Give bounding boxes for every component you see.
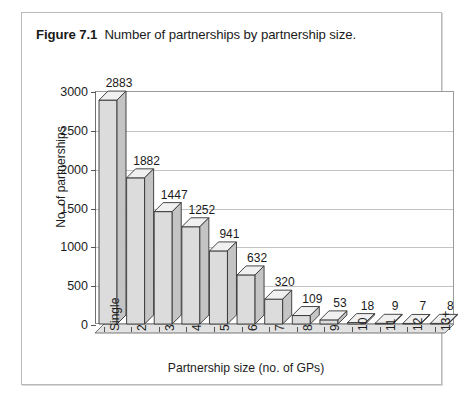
x-tick-mark — [214, 327, 215, 332]
x-tick-mark — [104, 327, 105, 332]
x-tick-mark — [297, 327, 298, 332]
gridline — [96, 286, 453, 287]
x-tick-label: Single — [108, 298, 122, 331]
x-tick-label: 3 — [163, 324, 177, 331]
x-axis-title: Partnership size (no. of GPs) — [58, 361, 434, 375]
x-tick-label: 9 — [328, 324, 342, 331]
figure-caption: Figure 7.1 Number of partnerships by par… — [36, 27, 431, 42]
x-tick-mark — [131, 327, 132, 332]
y-tick-label: 1500 — [60, 202, 88, 216]
x-tick-mark — [324, 327, 325, 332]
x-tick-label: 4 — [190, 324, 204, 331]
x-tick-mark — [269, 327, 270, 332]
figure-caption-text: Number of partnerships by partnership si… — [104, 27, 356, 42]
gridline — [96, 209, 453, 210]
x-tick-mark — [159, 327, 160, 332]
bar-value-label: 2883 — [106, 76, 133, 90]
x-tick-mark — [242, 327, 243, 332]
gridline — [96, 247, 453, 248]
y-tick-mark — [91, 92, 96, 93]
y-tick-label: 1000 — [60, 240, 88, 254]
y-tick-label: 2500 — [60, 124, 88, 138]
x-tick-label: 10 — [356, 318, 370, 331]
x-tick-label: 7 — [273, 324, 287, 331]
x-tick-mark — [186, 327, 187, 332]
x-tick-label: 6 — [246, 324, 260, 331]
y-tick-mark — [91, 170, 96, 171]
x-tick-mark — [352, 327, 353, 332]
y-tick-mark — [91, 209, 96, 210]
y-tick-label: 500 — [67, 279, 88, 293]
x-tick-label: 5 — [218, 324, 232, 331]
x-tick-mark — [435, 327, 436, 332]
x-tick-label: 2 — [135, 324, 149, 331]
x-tick-label: 12 — [411, 318, 425, 331]
y-tick-mark — [91, 247, 96, 248]
gridline — [96, 131, 453, 132]
x-tick-label: 13+ — [439, 311, 453, 331]
plot-frame: 050010001500200025003000 — [95, 91, 454, 324]
figure-number: Figure 7.1 — [36, 27, 97, 42]
x-tick-label: 8 — [301, 324, 315, 331]
x-tick-label: 11 — [384, 319, 398, 331]
y-tick-mark — [91, 286, 96, 287]
x-tick-mark — [407, 327, 408, 332]
gridline — [96, 170, 453, 171]
figure-frame: Figure 7.1 Number of partnerships by par… — [21, 12, 442, 385]
y-tick-label: 0 — [81, 318, 88, 332]
chart-area: No. of partnerships 05001000150020002500… — [58, 65, 434, 371]
x-tick-mark — [380, 327, 381, 332]
y-tick-label: 3000 — [60, 85, 88, 99]
y-tick-mark — [91, 131, 96, 132]
y-tick-label: 2000 — [60, 163, 88, 177]
